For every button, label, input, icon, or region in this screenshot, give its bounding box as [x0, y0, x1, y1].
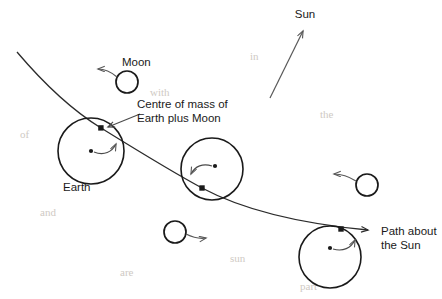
- earth-position-2: [181, 138, 243, 200]
- moon-circle-icon: [116, 71, 138, 93]
- moon-circle-icon: [356, 174, 378, 196]
- moon-circle-icon: [164, 221, 186, 243]
- moon-position-2: [164, 221, 206, 243]
- moon-velocity-arrow-icon: [334, 174, 356, 181]
- moon-velocity-arrow-icon: [98, 69, 117, 77]
- barycentre-label-line1: Centre of mass of: [137, 98, 229, 110]
- path-label-line2: the Sun: [381, 239, 421, 251]
- sun-direction-arrow-icon: [270, 31, 303, 98]
- rotation-arrow-icon: [94, 144, 116, 154]
- earth-position-1: [58, 118, 124, 184]
- earth-circle-icon: [299, 226, 361, 288]
- barycentre-square-icon: [199, 185, 204, 190]
- barycentre-leader-line: [108, 114, 140, 127]
- path-label-line1: Path about: [381, 225, 437, 237]
- ghost-text: in: [250, 50, 259, 62]
- rotation-arrow-icon: [191, 165, 212, 174]
- moon-position-1: [98, 69, 138, 93]
- moon-label: Moon: [122, 56, 151, 68]
- ghost-text: part: [300, 280, 317, 292]
- earth-position-3: [299, 226, 361, 288]
- centre-dot-icon: [328, 246, 332, 250]
- diagram-canvas: of with in the and sun part are: [0, 0, 442, 299]
- ghost-text: sun: [230, 252, 246, 264]
- orbit-path-icon: [17, 52, 368, 230]
- astronomy-diagram: of with in the and sun part are: [0, 0, 442, 299]
- ghost-text: with: [150, 86, 170, 98]
- ghost-text: are: [120, 266, 134, 278]
- ghost-text: and: [40, 206, 56, 218]
- moon-position-3: [334, 174, 378, 196]
- ghost-text: the: [320, 108, 334, 120]
- barycentre-square-icon: [338, 226, 343, 231]
- rotation-arrow-icon: [333, 240, 355, 250]
- page-showthrough-ghosting: of with in the and sun part are: [20, 50, 334, 292]
- moon-velocity-arrow-icon: [186, 234, 206, 238]
- earth-label: Earth: [63, 181, 91, 193]
- centre-dot-icon: [89, 149, 93, 153]
- barycentre-square-icon: [98, 125, 103, 130]
- centre-dot-icon: [213, 164, 217, 168]
- earth-circle-icon: [181, 138, 243, 200]
- ghost-text: of: [20, 128, 30, 140]
- barycentre-label-line2: Earth plus Moon: [137, 112, 221, 124]
- sun-label: Sun: [295, 8, 315, 20]
